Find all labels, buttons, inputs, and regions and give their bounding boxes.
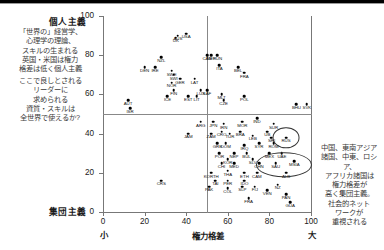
data-point-label: MOR xyxy=(237,124,247,129)
data-point-label: DOM xyxy=(221,145,231,150)
x-tick-label: 100 xyxy=(298,217,324,226)
data-point-label: ZAM xyxy=(207,135,216,140)
data-point-label: THA xyxy=(223,173,232,178)
data-point-label: IRE xyxy=(151,69,158,74)
data-point-label: BRA xyxy=(236,133,245,138)
data-point-label: PAK xyxy=(205,188,213,193)
data-point-label: ARG xyxy=(196,124,205,129)
data-point-label: JPN xyxy=(209,124,217,129)
top-rule-secondary xyxy=(0,3,384,4)
data-point-label: FRA xyxy=(240,75,249,80)
y-tick-label: 100 xyxy=(68,12,94,20)
y-tick-label: 40 xyxy=(68,130,94,138)
data-point-label: DEN xyxy=(140,69,149,74)
y-tick-label: 80 xyxy=(68,51,94,59)
data-point-label: LAT xyxy=(191,81,199,86)
data-point-label: FIN xyxy=(170,92,177,97)
data-point-label: MED xyxy=(229,165,239,170)
data-point-label: UK xyxy=(173,39,179,44)
data-point-label: TAI xyxy=(212,182,218,187)
data-point-label: LIT xyxy=(193,98,199,103)
x-tick-label: 0 xyxy=(90,217,116,226)
x-tick-label: 20 xyxy=(132,217,158,226)
data-point-label: HUN xyxy=(213,57,222,62)
x-tick-mark xyxy=(103,212,104,216)
data-point-label: ITA xyxy=(216,67,222,72)
x-tick-mark xyxy=(269,212,270,216)
y-tick-mark xyxy=(99,134,103,135)
data-point-label: POL xyxy=(240,98,249,103)
reference-line-vertical xyxy=(207,16,208,213)
data-point-label: VEN xyxy=(263,192,272,197)
data-point-label: ICE xyxy=(164,98,171,103)
data-point-label: TUR xyxy=(225,135,234,140)
highlight-ellipse xyxy=(273,127,300,149)
y-tick-label: 20 xyxy=(68,169,94,177)
data-point-label: FRA xyxy=(244,200,253,205)
data-point-label: NOR xyxy=(167,84,177,89)
data-point-label: CZE xyxy=(219,102,228,107)
data-point-label: GER xyxy=(175,81,184,86)
data-point-label: GUA xyxy=(286,204,295,209)
chart-root: 個人主義 集団主義 権力格差 小 大 「世界の」経営学、 心理学の理論、 スキル… xyxy=(0,0,384,250)
data-point-label: CRS xyxy=(157,182,166,187)
data-point-label: CAN xyxy=(202,57,211,62)
y-tick-mark xyxy=(99,173,103,174)
data-point-label: USA xyxy=(182,35,191,40)
annotation-left-bottom: ここで良しとされる リーダーに 求められる 資質・スキルは 全世界で使えるか? xyxy=(4,76,96,122)
x-tick-label: 60 xyxy=(215,217,241,226)
data-point-label: JAM xyxy=(184,135,193,140)
x-tick-mark xyxy=(186,212,187,216)
y-tick-mark xyxy=(99,94,103,95)
data-point-label: SVK xyxy=(303,106,312,111)
x-tick-label: 40 xyxy=(173,217,199,226)
x-axis-high-label: 大 xyxy=(300,228,324,240)
highlight-ellipse xyxy=(256,152,312,178)
data-point-label: LEB xyxy=(249,137,257,142)
data-point-label: KORTH xyxy=(204,175,219,180)
annotation-right: 中国、東南アジア 諸国、中東、ロシア、 アフリカ諸国は 権力格差が 高く集団主義… xyxy=(316,143,382,227)
data-point-label: IND xyxy=(253,120,260,125)
data-point-label: CAM xyxy=(252,175,262,180)
data-point-label: SYR xyxy=(255,145,264,150)
y-tick-label: 60 xyxy=(68,90,94,98)
x-tick-mark xyxy=(145,212,146,216)
x-tick-mark xyxy=(228,212,229,216)
data-point-label: FIJ xyxy=(252,188,258,193)
data-point-label: EST xyxy=(184,98,192,103)
y-tick-label: 0 xyxy=(68,208,94,216)
x-axis-low-label: 小 xyxy=(92,228,116,240)
x-axis-title: 権力格差 xyxy=(166,229,250,241)
data-point-label: CHI xyxy=(218,165,225,170)
y-tick-mark xyxy=(99,16,103,17)
y-tick-mark xyxy=(99,55,103,56)
data-point-label: SLP xyxy=(238,188,246,193)
data-point-label: COL xyxy=(223,190,232,195)
data-point-label: NZL xyxy=(157,59,165,64)
data-point-label: ISR xyxy=(126,110,133,115)
x-tick-mark xyxy=(311,212,312,216)
x-tick-label: 80 xyxy=(256,217,282,226)
data-point-label: BHU xyxy=(292,106,301,111)
data-point-label: SAF xyxy=(203,92,211,97)
data-point-label: NZ xyxy=(275,186,281,191)
